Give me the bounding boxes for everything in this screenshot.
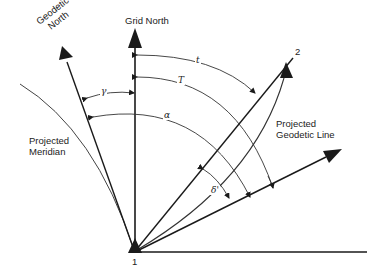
projected-geodetic-arrowhead-icon: [280, 62, 293, 78]
alpha-label: α: [163, 110, 171, 120]
projected-meridian-label: Projected Meridian: [29, 135, 69, 157]
geodetic-north-arrowhead-icon: [59, 46, 73, 60]
gamma-arc: [87, 92, 134, 98]
projected-meridian-curve: [20, 84, 134, 250]
point-2-label: 2: [295, 46, 300, 57]
delta-label: δ': [210, 185, 220, 195]
T-label: T: [177, 75, 185, 85]
reference-direction-line: [137, 157, 326, 251]
grid-north-label: Grid North: [125, 15, 169, 26]
grid-north-arrowhead-icon: [128, 28, 142, 48]
gamma-label: γ: [100, 86, 107, 96]
alpha-arc: [93, 114, 250, 197]
projected-geodetic-curve: [137, 78, 284, 250]
T-arc: [137, 77, 273, 188]
line-to-point-2: [136, 58, 293, 250]
point-1-label: 1: [132, 256, 137, 267]
reference-direction-arrowhead-icon: [323, 149, 342, 163]
diagram-canvas: Geodetic North Grid North Projected Meri…: [0, 0, 382, 268]
t-label: t: [195, 55, 201, 65]
projected-geodetic-line-label: Projected Geodetic Line: [276, 118, 335, 140]
